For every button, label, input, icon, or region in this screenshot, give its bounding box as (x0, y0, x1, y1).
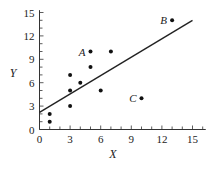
regression-line-path (40, 20, 193, 112)
data-point (68, 104, 72, 108)
y-tick-label: 0 (29, 124, 35, 136)
ticks: 0369121503691215 (24, 7, 203, 145)
y-tick-label: 3 (29, 100, 35, 112)
data-point (140, 96, 144, 100)
x-tick-label: 0 (37, 133, 43, 145)
point-label: B (160, 14, 167, 26)
data-point (89, 50, 93, 54)
y-tick-label: 15 (24, 7, 36, 19)
x-tick-label: 12 (156, 133, 167, 145)
x-tick-label: 3 (67, 133, 73, 145)
x-tick-label: 15 (187, 133, 199, 145)
data-point (89, 65, 93, 69)
y-axis-label: Y (10, 66, 18, 80)
data-point (78, 81, 82, 85)
y-tick-label: 6 (29, 77, 35, 89)
x-tick-label: 9 (129, 133, 135, 145)
data-point (170, 18, 174, 22)
x-axis-label: X (108, 147, 117, 161)
data-point (99, 89, 103, 93)
point-label: A (78, 46, 86, 58)
x-tick-label: 6 (98, 133, 104, 145)
data-point (68, 89, 72, 93)
regression-line (40, 20, 193, 112)
data-point (68, 73, 72, 77)
y-tick-label: 9 (29, 53, 35, 65)
data-point (48, 120, 52, 124)
data-point (48, 112, 52, 116)
y-tick-label: 12 (24, 30, 35, 42)
point-label: C (129, 92, 137, 104)
data-point (109, 50, 113, 54)
scatter-chart: 0369121503691215 ACB X Y (0, 0, 213, 169)
